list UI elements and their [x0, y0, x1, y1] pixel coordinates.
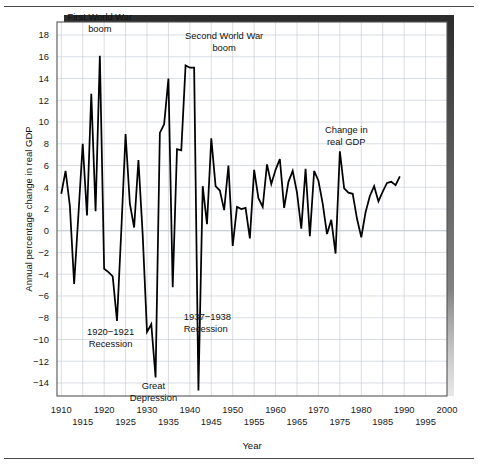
y-tick-label: 0	[44, 225, 49, 236]
annotation-change-in-real-gdp: Change inreal GDP	[325, 124, 368, 147]
x-tick-label-upper: 1940	[179, 404, 200, 415]
gdp-line-chart: 181614121086420−2−4−6−8−10−12−14 1910192…	[0, 0, 478, 474]
y-tick-label: −12	[33, 356, 49, 367]
x-tick-label-upper: 1960	[265, 404, 286, 415]
x-tick-label-upper: 1990	[394, 404, 415, 415]
x-tick-label-lower: 1965	[287, 416, 308, 427]
x-tick-label-upper: 1970	[308, 404, 329, 415]
x-tick-label-upper: 1950	[222, 404, 243, 415]
figure-container: 181614121086420−2−4−6−8−10−12−14 1910192…	[0, 0, 478, 474]
x-axis-title: Year	[242, 440, 261, 451]
annotation-line: boom	[212, 42, 236, 53]
y-tick-label: 6	[44, 160, 49, 171]
x-tick-label-upper: 2000	[437, 404, 458, 415]
y-tick-label: 4	[44, 182, 49, 193]
x-axis-tick-labels-upper: 1910192019301940195019601970198019902000	[51, 404, 458, 415]
annotation-line: Change in	[325, 124, 368, 135]
annotation-line: Recession	[184, 323, 228, 334]
annotation-line: Depression	[130, 392, 177, 403]
x-tick-label-lower: 1925	[115, 416, 136, 427]
y-tick-label: 8	[44, 138, 49, 149]
annotation-recession-1937-1938: 1937−1938Recession	[184, 311, 231, 334]
annotation-line: Recession	[89, 338, 133, 349]
y-tick-label: −2	[38, 247, 49, 258]
x-tick-label-upper: 1930	[137, 404, 158, 415]
x-tick-label-lower: 1945	[201, 416, 222, 427]
y-tick-label: 14	[39, 73, 49, 84]
x-tick-label-lower: 1995	[415, 416, 436, 427]
annotation-line: boom	[88, 23, 112, 34]
y-tick-label: −4	[38, 269, 49, 280]
x-tick-label-lower: 1985	[372, 416, 393, 427]
x-axis-tick-labels-lower: 191519251935194519551965197519851995	[72, 416, 436, 427]
y-axis-tick-labels: 181614121086420−2−4−6−8−10−12−14	[33, 29, 49, 388]
y-tick-label: 18	[39, 29, 49, 40]
x-tick-label-upper: 1980	[351, 404, 372, 415]
x-tick-label-lower: 1915	[72, 416, 93, 427]
y-tick-label: −6	[38, 290, 49, 301]
y-tick-label: 10	[39, 116, 49, 127]
annotation-nineteen-twenty-recession: 1920−1921Recession	[87, 326, 134, 349]
x-tick-label-upper: 1920	[94, 404, 115, 415]
x-tick-label-lower: 1975	[329, 416, 350, 427]
annotation-line: Second World War	[185, 30, 263, 41]
y-tick-label: −10	[33, 334, 49, 345]
y-tick-label: 2	[44, 203, 49, 214]
annotation-line: real GDP	[327, 136, 366, 147]
y-tick-label: 16	[39, 51, 49, 62]
annotation-line: First World War	[68, 11, 133, 22]
y-axis-title: Annual percentage change in real GDP	[23, 126, 34, 291]
annotation-line: Great	[142, 380, 166, 391]
annotation-line: 1937−1938	[184, 311, 231, 322]
x-tick-label-upper: 1910	[51, 404, 72, 415]
y-tick-label: −8	[38, 312, 49, 323]
x-tick-label-lower: 1955	[244, 416, 265, 427]
y-tick-label: 12	[39, 95, 49, 106]
x-tick-label-lower: 1935	[158, 416, 179, 427]
annotation-line: 1920−1921	[87, 326, 134, 337]
y-tick-label: −14	[33, 377, 49, 388]
